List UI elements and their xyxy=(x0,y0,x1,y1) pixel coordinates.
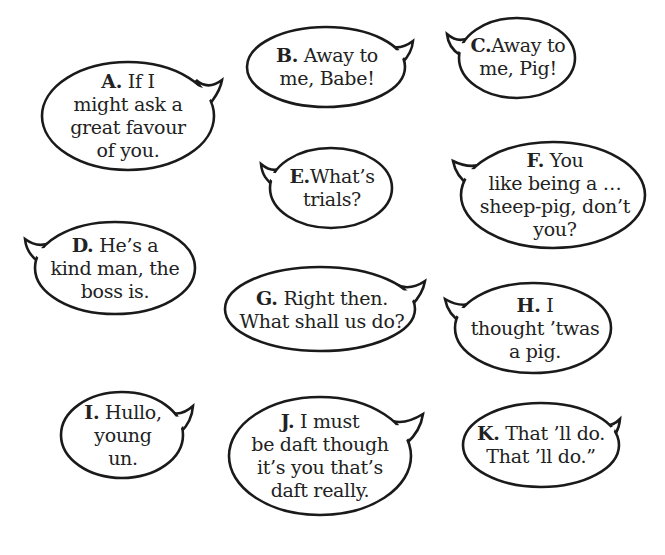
bubble-line: You xyxy=(544,149,583,171)
speech-bubble-j: J. I must be daft though it’s you that’s… xyxy=(238,408,402,504)
bubble-letter: C. xyxy=(470,34,491,56)
bubble-letter: H. xyxy=(517,294,541,316)
bubble-line: me, Babe! xyxy=(280,67,375,90)
bubble-line: un. xyxy=(108,447,138,470)
bubble-line: me, Pig! xyxy=(479,57,557,80)
bubble-line: like being a … xyxy=(488,172,621,195)
bubble-line: He’s a xyxy=(93,234,158,256)
bubble-letter: E. xyxy=(289,165,310,187)
bubble-line: trials? xyxy=(303,188,361,211)
bubble-line: be daft though xyxy=(251,433,388,456)
speech-bubble-e: E.What’s trials? xyxy=(280,161,384,215)
bubble-line: What shall us do? xyxy=(240,310,405,333)
speech-bubble-k: K. That ’ll do. That ’ll do.” xyxy=(466,418,616,472)
bubble-line: That ’ll do.” xyxy=(486,445,595,468)
bubble-line: kind man, the xyxy=(51,257,180,280)
bubble-line: it’s you that’s xyxy=(257,456,383,479)
bubble-line: you? xyxy=(533,218,576,241)
speech-bubble-f: F. You like being a … sheep-pig, don’t y… xyxy=(474,146,636,244)
bubble-line: If I xyxy=(122,70,155,92)
bubble-line: Hullo, xyxy=(99,401,161,423)
bubble-line: great favour xyxy=(70,116,186,139)
bubble-line: Right then. xyxy=(278,287,388,309)
speech-bubble-b: B. Away to me, Babe! xyxy=(262,40,392,94)
bubble-line: might ask a xyxy=(74,93,183,116)
bubble-line: I xyxy=(541,294,554,316)
bubble-letter: K. xyxy=(477,422,500,444)
bubble-letter: F. xyxy=(526,149,544,171)
speech-bubble-d: D. He’s a kind man, the boss is. xyxy=(42,232,188,304)
speech-bubble-a: A. If I might ask a great favour of you. xyxy=(52,68,204,164)
bubble-letter: B. xyxy=(276,44,298,66)
bubble-line: thought ’twas xyxy=(471,317,600,340)
bubble-line: young xyxy=(94,424,151,447)
speech-bubble-c: C.Away to me, Pig! xyxy=(466,30,570,84)
speech-bubble-g: G. Right then. What shall us do? xyxy=(231,283,413,337)
bubble-line: daft really. xyxy=(271,479,370,502)
bubble-line: Away to xyxy=(298,44,378,66)
bubble-line: boss is. xyxy=(81,280,150,303)
bubble-line: of you. xyxy=(97,139,160,162)
bubble-line: a pig. xyxy=(509,340,561,363)
bubble-letter: J. xyxy=(281,410,295,432)
bubble-line: What’s xyxy=(310,165,375,187)
bubble-line: sheep-pig, don’t xyxy=(480,195,630,218)
bubble-letter: G. xyxy=(256,287,278,309)
bubble-line: That ’ll do. xyxy=(499,422,605,444)
bubble-line: Away to xyxy=(491,34,565,56)
bubble-letter: A. xyxy=(101,70,122,92)
bubble-line: I must xyxy=(294,410,359,432)
speech-bubble-i: I. Hullo, young un. xyxy=(70,399,176,471)
bubble-letter: D. xyxy=(72,234,94,256)
speech-bubble-h: H. I thought ’twas a pig. xyxy=(464,292,606,364)
worksheet-canvas: A. If I might ask a great favour of you.… xyxy=(0,0,665,555)
bubble-letter: I. xyxy=(84,401,99,423)
